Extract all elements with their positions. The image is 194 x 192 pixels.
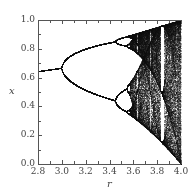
x-tick-label: 3.0 <box>50 167 74 176</box>
bifurcation-chart: 0.00.20.40.60.81.02.83.03.23.43.63.84.0 … <box>0 0 194 192</box>
x-tick-label: 3.2 <box>74 167 98 176</box>
y-axis-title: x <box>9 86 15 96</box>
x-tick-label: 3.6 <box>121 167 145 176</box>
x-axis-title: r <box>107 179 112 189</box>
y-tick-label: 0.4 <box>5 101 35 110</box>
x-tick-label: 3.8 <box>145 167 169 176</box>
x-tick-label: 3.4 <box>98 167 122 176</box>
y-tick-label: 1.0 <box>5 15 35 24</box>
x-tick-label: 2.8 <box>26 167 50 176</box>
y-tick-label: 0.8 <box>5 44 35 53</box>
x-tick-label: 4.0 <box>169 167 193 176</box>
y-tick-label: 0.2 <box>5 130 35 139</box>
y-tick-label: 0.6 <box>5 73 35 82</box>
